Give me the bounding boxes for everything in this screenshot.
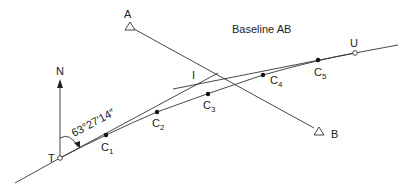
point-C4-label: C4 bbox=[270, 74, 283, 89]
point-C2-marker bbox=[155, 110, 159, 114]
station-A-label: A bbox=[124, 8, 132, 20]
point-T-marker bbox=[58, 156, 63, 161]
tangent-line-TI bbox=[60, 73, 218, 158]
point-I-label: I bbox=[192, 69, 195, 81]
point-C4-marker bbox=[261, 73, 265, 77]
tangent-line-IU bbox=[173, 53, 355, 89]
curve-line bbox=[15, 45, 398, 183]
point-T-label: T bbox=[48, 152, 55, 164]
point-C5-marker bbox=[316, 58, 320, 62]
point-C3-label: C3 bbox=[203, 99, 216, 114]
point-C5-label: C5 bbox=[314, 66, 327, 81]
point-C1-marker bbox=[104, 133, 108, 137]
station-B-label: B bbox=[331, 128, 338, 140]
point-U-label: U bbox=[350, 37, 358, 49]
station-B-triangle-icon bbox=[314, 127, 324, 135]
north-label: N bbox=[56, 65, 64, 77]
curve-setting-diagram: N 63°27′14″ A B Baseline AB T U I C1 C2 … bbox=[0, 0, 409, 192]
north-arrow-icon bbox=[57, 79, 63, 88]
point-C3-marker bbox=[206, 92, 210, 96]
point-C1-label: C1 bbox=[101, 141, 114, 156]
station-A-triangle-icon bbox=[125, 22, 135, 30]
point-U-marker bbox=[353, 51, 358, 56]
point-C2-label: C2 bbox=[152, 117, 165, 132]
baseline-title: Baseline AB bbox=[232, 23, 291, 35]
baseline-AB bbox=[134, 29, 314, 128]
